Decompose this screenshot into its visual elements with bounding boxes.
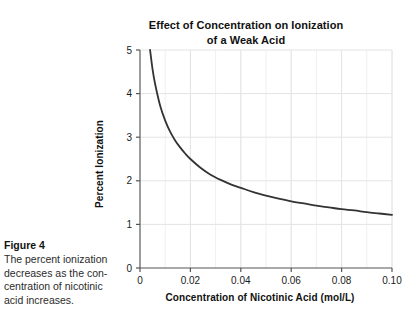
x-axis-tick-label: 0.02 [181,275,201,286]
y-axis-tick-label: 5 [126,45,132,56]
y-axis-tick-label: 0 [126,263,132,274]
x-axis-tick-label: 0.04 [231,275,251,286]
data-series-line [150,50,392,215]
plot-area: 012345 00.020.040.060.080.10 [96,0,410,319]
figure-caption-line: The percent ionization [4,253,107,265]
x-axis-tick-label: 0.10 [382,275,402,286]
y-axis-tick-labels: 012345 [126,45,132,274]
y-axis-tick-label: 1 [126,219,132,230]
figure-caption-line: centration of nicotinic [4,280,103,292]
y-axis-tick-label: 2 [126,175,132,186]
ionization-curve [150,50,392,215]
figure-caption-text: The percent ionizationdecreases as the c… [4,253,108,307]
y-axis-tick-label: 4 [126,88,132,99]
figure-caption-title: Figure 4 [4,238,108,252]
minor-gridlines-x [140,50,392,268]
x-axis-tick-labels: 00.020.040.060.080.10 [137,275,402,286]
chart-figure: Effect of Concentration on Ionizationof … [96,0,410,319]
x-axis-tick-label: 0.06 [281,275,301,286]
figure-caption-line: acid increases. [4,294,74,306]
figure-caption-line: decreases as the con- [4,267,107,279]
y-axis-tick-label: 3 [126,132,132,143]
x-axis-tick-label: 0 [137,275,143,286]
figure-caption-block: Figure 4 The percent ionizationdecreases… [4,238,108,307]
x-axis-tick-label: 0.08 [332,275,352,286]
